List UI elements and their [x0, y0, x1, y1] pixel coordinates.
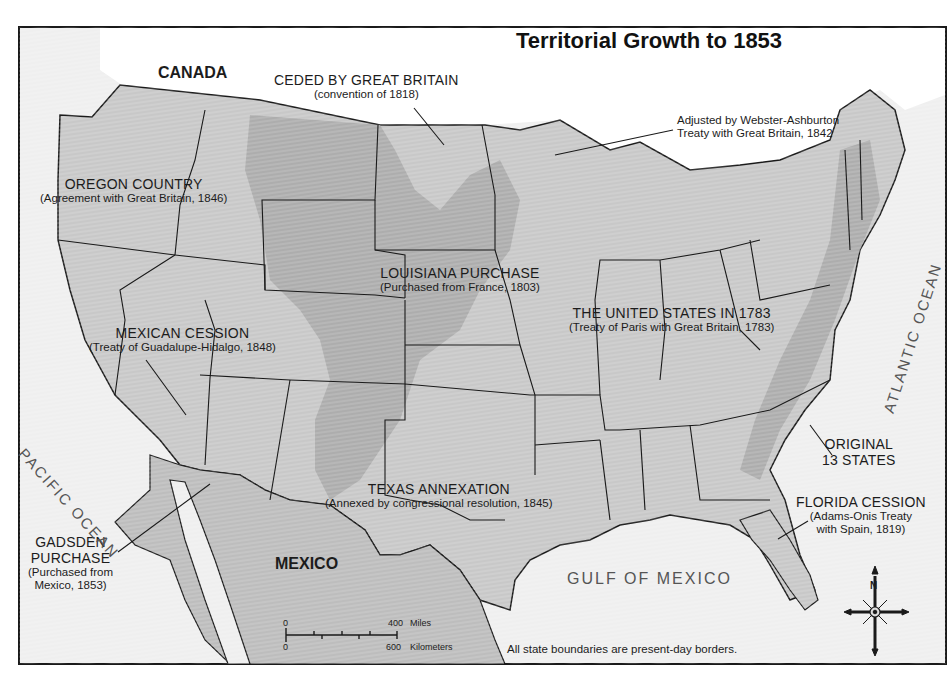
region-name: THE UNITED STATES IN 1783: [569, 305, 774, 321]
region-detail-line1: (Adams-Onis Treaty: [796, 510, 926, 523]
label-united-states-1783: THE UNITED STATES IN 1783 (Treaty of Par…: [569, 305, 774, 334]
label-mexico: MEXICO: [275, 555, 338, 573]
label-oregon-country: OREGON COUNTRY (Agreement with Great Bri…: [40, 176, 227, 205]
region-name: OREGON COUNTRY: [40, 176, 227, 192]
region-detail: (Agreement with Great Britain, 1846): [40, 192, 227, 205]
region-name: FLORIDA CESSION: [796, 494, 926, 510]
scale-miles-zero: 0: [283, 618, 288, 628]
label-louisiana-purchase: LOUISIANA PURCHASE (Purchased from Franc…: [380, 265, 540, 294]
region-detail-line1: Adjusted by Webster-Ashburton: [677, 114, 839, 127]
label-webster-ashburton: Adjusted by Webster-Ashburton Treaty wit…: [677, 114, 839, 140]
scale-miles-unit: Miles: [410, 618, 431, 628]
label-texas-annexation: TEXAS ANNEXATION (Annexed by congression…: [325, 481, 553, 510]
region-name: LOUISIANA PURCHASE: [380, 265, 540, 281]
label-ceded-great-britain: CEDED BY GREAT BRITAIN (convention of 18…: [274, 72, 459, 101]
label-florida-cession: FLORIDA CESSION (Adams-Onis Treaty with …: [796, 494, 926, 537]
region-detail: (Annexed by congressional resolution, 18…: [325, 497, 553, 510]
scale-km-unit: Kilometers: [410, 642, 453, 652]
region-detail-line1: (Purchased from: [28, 566, 113, 579]
region-detail: (convention of 1818): [274, 88, 459, 101]
footnote: All state boundaries are present-day bor…: [507, 643, 737, 655]
region-detail-line2: Mexico, 1853): [28, 579, 113, 592]
label-mexican-cession: MEXICAN CESSION (Treaty of Guadalupe-Hid…: [89, 325, 276, 354]
compass-north-label: N: [870, 580, 877, 592]
region-detail: (Treaty of Paris with Great Britain, 178…: [569, 321, 774, 334]
region-name: TEXAS ANNEXATION: [325, 481, 553, 497]
region-name: MEXICAN CESSION: [89, 325, 276, 341]
label-gulf-of-mexico: GULF OF MEXICO: [567, 570, 732, 588]
scale-km-max: 600: [386, 642, 401, 652]
region-detail: (Treaty of Guadalupe-Hidalgo, 1848): [89, 341, 276, 354]
region-name-line2: PURCHASE: [28, 550, 113, 566]
label-canada: CANADA: [158, 64, 227, 82]
scale-miles-max: 400: [388, 618, 403, 628]
label-original-13-states: ORIGINAL 13 STATES: [822, 436, 896, 468]
region-name-line1: ORIGINAL: [822, 436, 896, 452]
region-detail-line2: with Spain, 1819): [796, 523, 926, 536]
scale-km-zero: 0: [283, 642, 288, 652]
region-name-line2: 13 STATES: [822, 452, 896, 468]
region-detail-line2: Treaty with Great Britain, 1842: [677, 127, 839, 140]
region-name: CEDED BY GREAT BRITAIN: [274, 72, 459, 88]
map-title: Territorial Growth to 1853: [516, 28, 782, 54]
region-detail: (Purchased from France, 1803): [380, 281, 540, 294]
